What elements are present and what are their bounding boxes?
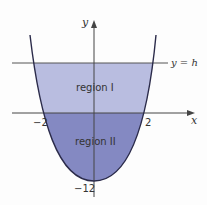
tick-label-neg-12: −12 xyxy=(74,183,95,194)
x-axis-label: x xyxy=(191,114,198,127)
y-equals-h-label: y = h xyxy=(170,57,198,68)
parabola-region-diagram: y x y = h region I region II −2 2 −12 xyxy=(0,0,207,205)
region-two-label: region II xyxy=(75,136,116,147)
tick-label-neg-2: −2 xyxy=(33,117,48,128)
y-axis-arrow-icon xyxy=(91,20,97,28)
tick-label-2: 2 xyxy=(145,117,151,128)
y-axis-label: y xyxy=(81,16,89,29)
region-one-label: region I xyxy=(76,82,114,93)
region-two-fill xyxy=(0,113,207,183)
